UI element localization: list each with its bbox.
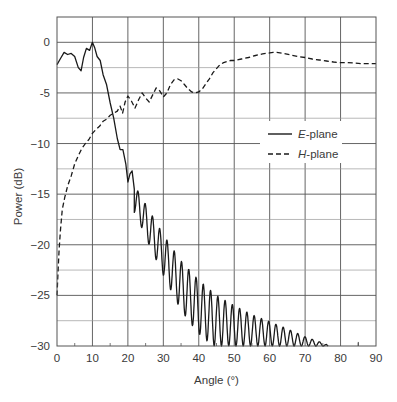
x-tick-label: 10 [86,352,99,364]
y-tick-label: −30 [30,340,50,352]
x-tick-label: 90 [370,352,383,364]
legend-label-h-plane: H-plane [298,148,338,160]
y-tick-label: −20 [30,239,50,251]
y-tick-label: -5 [40,87,50,99]
x-tick-label: 50 [228,352,241,364]
y-tick-label: 0 [44,36,50,48]
x-tick-label: 30 [157,352,170,364]
x-tick-label: 40 [192,352,205,364]
y-tick-label: −25 [30,289,50,301]
x-tick-label: 0 [54,352,60,364]
x-tick-label: 20 [121,352,134,364]
radiation-pattern-chart: 01020304050607080900-5−10−15−20−25−30 E-… [0,0,397,402]
x-tick-label: 60 [263,352,276,364]
plot-frame [57,17,376,346]
x-tick-label: 80 [334,352,347,364]
y-axis-label: Power (dB) [12,168,24,226]
h-plane-curve [57,52,376,295]
legend-label-e-plane: E-plane [298,128,338,140]
grid-lines [57,17,376,346]
axis-ticks: 01020304050607080900-5−10−15−20−25−30 [30,36,382,364]
y-tick-label: −15 [30,188,50,200]
y-tick-label: −10 [30,138,50,150]
x-tick-label: 70 [299,352,312,364]
legend: E-plane H-plane [260,121,342,163]
x-axis-label: Angle (°) [194,374,239,386]
